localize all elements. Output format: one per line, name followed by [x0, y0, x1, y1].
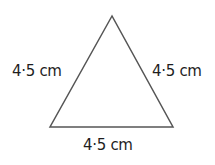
left-side-label: 4·5 cm — [12, 64, 62, 79]
right-side-label: 4·5 cm — [152, 64, 202, 79]
base-label: 4·5 cm — [83, 138, 133, 153]
